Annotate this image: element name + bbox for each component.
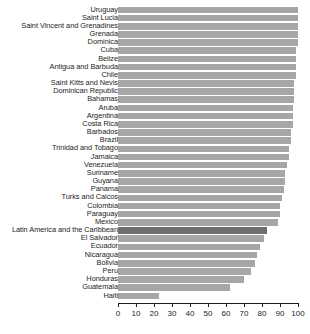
bar <box>118 178 285 185</box>
bar-track <box>118 113 298 120</box>
bar <box>118 39 298 46</box>
x-axis-tick <box>208 303 209 307</box>
bar-track <box>118 146 298 153</box>
bar-track <box>118 31 298 38</box>
bar-track <box>118 219 298 226</box>
plot-area: UruguaySaint LuciaSaint Vincent and Gren… <box>0 0 310 300</box>
bar-track <box>118 7 298 14</box>
x-axis-tick-label: 30 <box>162 309 182 318</box>
bar <box>118 162 287 169</box>
bar <box>118 195 282 202</box>
x-axis-tick-label: 20 <box>144 309 164 318</box>
bar-track <box>118 47 298 54</box>
x-axis-tick <box>154 303 155 307</box>
bar <box>118 268 251 275</box>
bar-track <box>118 96 298 103</box>
bar <box>118 137 291 144</box>
bar-track <box>118 244 298 251</box>
x-axis-tick <box>262 303 263 307</box>
bar-track <box>118 276 298 283</box>
bar <box>118 146 289 153</box>
x-axis-tick <box>244 303 245 307</box>
bar-track <box>118 64 298 71</box>
x-axis-tick <box>118 303 119 307</box>
bar-track <box>118 72 298 79</box>
bar-track <box>118 235 298 242</box>
bar <box>118 96 294 103</box>
bar <box>118 121 293 128</box>
x-axis-tick-label: 90 <box>270 309 290 318</box>
bar-chart: UruguaySaint LuciaSaint Vincent and Gren… <box>0 0 310 334</box>
bar <box>118 170 285 177</box>
bar-track <box>118 56 298 63</box>
bar-track <box>118 170 298 177</box>
bar <box>118 88 294 95</box>
bar <box>118 252 257 259</box>
bar <box>118 154 289 161</box>
bar-category-label: Antigua and Barbuda <box>0 63 118 71</box>
bar <box>118 203 280 210</box>
bar <box>118 56 296 63</box>
bar-track <box>118 162 298 169</box>
x-axis-tick-label: 80 <box>252 309 272 318</box>
bar-track <box>118 211 298 218</box>
bar <box>118 31 298 38</box>
bar <box>118 105 293 112</box>
bar <box>118 219 278 226</box>
bar <box>118 64 296 71</box>
bar <box>118 186 284 193</box>
bar <box>118 72 296 79</box>
bar-track <box>118 121 298 128</box>
x-axis-tick-label: 40 <box>180 309 200 318</box>
bar-category-label: Bolivia <box>0 259 118 267</box>
bar-row: Haiti <box>0 292 310 300</box>
bar-track <box>118 154 298 161</box>
bar-track <box>118 284 298 291</box>
bar <box>118 293 159 300</box>
bar-track <box>118 203 298 210</box>
bar <box>118 15 298 22</box>
bar-track <box>118 227 298 234</box>
bar-category-label: Guatemala <box>0 283 118 291</box>
bar-track <box>118 252 298 259</box>
x-axis-tick-label: 0 <box>108 309 128 318</box>
bar <box>118 7 298 14</box>
x-axis-tick <box>190 303 191 307</box>
bar <box>118 244 260 251</box>
x-axis-tick-label: 60 <box>216 309 236 318</box>
bar-track <box>118 260 298 267</box>
bar-track <box>118 15 298 22</box>
bar <box>118 276 244 283</box>
bar-track <box>118 268 298 275</box>
x-axis-tick <box>280 303 281 307</box>
bar-track <box>118 178 298 185</box>
bar-track <box>118 129 298 136</box>
bar <box>118 129 291 136</box>
x-axis-tick-label: 70 <box>234 309 254 318</box>
bar-category-label: Haiti <box>0 292 118 300</box>
bar-track <box>118 88 298 95</box>
bar-track <box>118 186 298 193</box>
bar <box>118 47 296 54</box>
bar-track <box>118 293 298 300</box>
x-axis-tick <box>136 303 137 307</box>
bar <box>118 260 255 267</box>
bar-track <box>118 23 298 30</box>
bar <box>118 80 294 87</box>
bar <box>118 211 280 218</box>
bar <box>118 113 293 120</box>
bar <box>118 284 230 291</box>
x-axis-tick <box>298 303 299 307</box>
x-axis-tick-label: 10 <box>126 309 146 318</box>
x-axis-tick <box>226 303 227 307</box>
bar-highlighted <box>118 227 267 234</box>
x-axis-tick-label: 100 <box>288 309 308 318</box>
x-axis-tick <box>172 303 173 307</box>
bar <box>118 23 298 30</box>
bar-rows: UruguaySaint LuciaSaint Vincent and Gren… <box>0 6 310 300</box>
bar-track <box>118 195 298 202</box>
bar-track <box>118 80 298 87</box>
x-axis-tick-label: 50 <box>198 309 218 318</box>
bar-track <box>118 39 298 46</box>
bar-track <box>118 105 298 112</box>
